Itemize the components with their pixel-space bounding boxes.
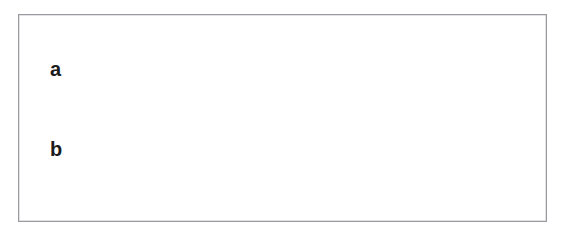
figure-frame xyxy=(18,14,547,222)
panel-label-a: a xyxy=(50,59,61,79)
figure-root: a b xyxy=(0,0,565,238)
panel-label-b: b xyxy=(50,139,62,159)
